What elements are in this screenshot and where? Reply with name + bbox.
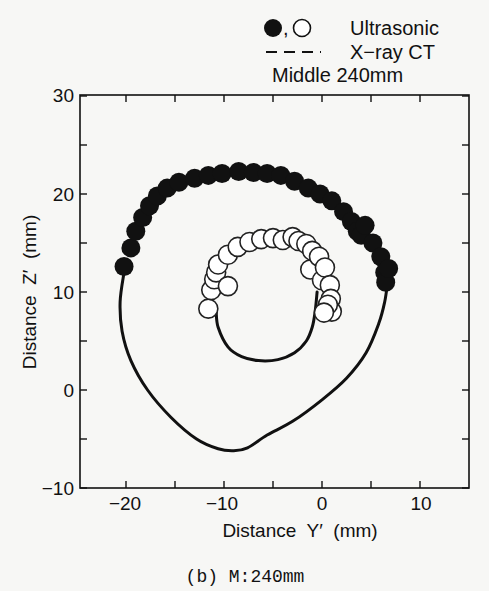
x-tick-labels: −20 −10 0 10	[109, 493, 432, 514]
filled-circle-legend-icon	[264, 19, 282, 37]
legend-ultrasonic-label: Ultrasonic	[350, 17, 439, 39]
x-tick-label: 10	[410, 493, 431, 514]
open-circle-marker	[314, 303, 333, 322]
legend-section-label: Middle 240mm	[272, 64, 403, 86]
filled-circle-marker	[213, 164, 232, 183]
ultrasonic-inner-markers	[199, 228, 341, 322]
filled-circle-marker	[121, 238, 140, 257]
x-tick-label: 0	[317, 493, 328, 514]
y-tick-label: 0	[63, 380, 74, 401]
open-circle-marker	[218, 277, 237, 296]
x-tick-label: −10	[206, 493, 238, 514]
xray-ct-contours	[120, 272, 388, 450]
y-axis-label: Distance Z′ (mm)	[19, 215, 40, 370]
filled-circle-marker	[379, 259, 398, 278]
x-tick-label: −20	[109, 493, 141, 514]
y-tick-label: 10	[53, 282, 74, 303]
figure: , Ultrasonic X−ray CT Middle 240mm 30 20…	[0, 0, 489, 591]
legend: , Ultrasonic X−ray CT Middle 240mm	[264, 17, 439, 86]
open-circle-marker	[199, 299, 218, 318]
filled-circle-marker	[356, 216, 375, 235]
x-axis-label: Distance Y′ (mm)	[222, 520, 377, 541]
figure-caption: (b) M:240mm	[186, 567, 305, 587]
open-circle-legend-icon	[294, 20, 311, 37]
plot-frame	[80, 95, 469, 488]
xray-ct-contour-line	[216, 292, 317, 361]
filled-circle-marker	[115, 257, 134, 276]
legend-xray-label: X−ray CT	[350, 41, 435, 63]
ultrasonic-outer-markers	[115, 162, 399, 292]
y-tick-label: 20	[53, 184, 74, 205]
axis-ticks	[80, 95, 469, 488]
y-tick-labels: 30 20 10 0 −10	[42, 85, 74, 499]
open-circle-marker	[315, 258, 334, 277]
y-tick-label: −10	[42, 478, 74, 499]
legend-comma: ,	[283, 17, 289, 39]
y-tick-label: 30	[53, 85, 74, 106]
